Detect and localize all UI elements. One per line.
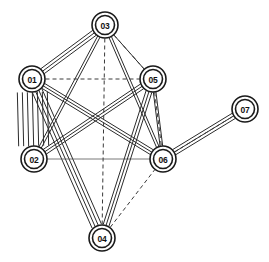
node-label: 06: [158, 155, 168, 165]
edge-line: [27, 93, 28, 146]
node-05[interactable]: 05: [140, 66, 166, 92]
edge-line: [110, 170, 155, 228]
edge-layer: [17, 31, 235, 228]
edge-03-04: [102, 39, 105, 225]
node-03[interactable]: 03: [92, 12, 118, 38]
node-01[interactable]: 01: [19, 66, 45, 92]
edge-01-03: [41, 31, 96, 74]
node-06[interactable]: 06: [150, 146, 176, 172]
node-label: 07: [240, 105, 250, 115]
edge-line: [42, 89, 101, 223]
edge-line: [43, 33, 94, 71]
node-label: 03: [100, 21, 110, 31]
graph-canvas: 01020304050607: [0, 0, 269, 262]
edge-line: [39, 36, 97, 146]
node-layer: 01020304050607: [19, 12, 258, 251]
edge-line: [102, 39, 105, 225]
edge-04-06: [110, 170, 155, 228]
node-label: 02: [29, 155, 39, 165]
edge-line: [41, 31, 92, 69]
edge-line: [42, 88, 150, 154]
node-label: 01: [27, 75, 37, 85]
node-04[interactable]: 04: [89, 225, 115, 251]
node-label: 04: [97, 234, 107, 244]
edge-line: [109, 93, 152, 226]
node-label: 05: [148, 75, 158, 85]
edge-line: [173, 113, 232, 149]
node-02[interactable]: 02: [21, 146, 47, 172]
edge-line: [176, 119, 235, 155]
edge-line: [32, 93, 33, 146]
edge-line: [17, 93, 18, 146]
edge-line: [37, 92, 38, 145]
edge-line: [22, 93, 23, 146]
node-07[interactable]: 07: [232, 96, 258, 122]
network-graph-figure: 01020304050607: [0, 0, 269, 262]
edge-06-07: [173, 113, 235, 154]
